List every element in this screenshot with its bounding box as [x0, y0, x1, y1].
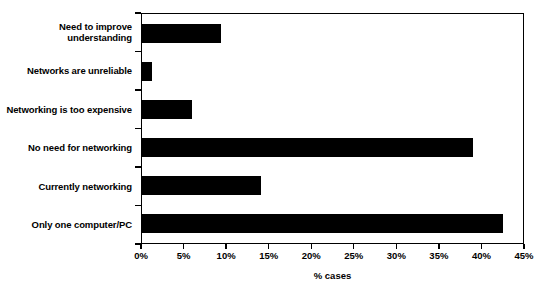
x-tick-mark [311, 244, 312, 249]
x-tick-mark [396, 244, 397, 249]
x-tick-label: 35% [429, 250, 448, 261]
x-tick-label: 30% [387, 250, 406, 261]
bar [142, 100, 192, 119]
y-axis-label-text: Networking is too expensive [6, 104, 132, 116]
x-tick-label: 40% [472, 250, 491, 261]
x-tick-label: 5% [177, 250, 191, 261]
x-tick-label: 15% [259, 250, 278, 261]
x-tick-mark [268, 244, 269, 249]
bar-row [142, 205, 523, 243]
bar [142, 62, 152, 81]
y-axis-label: Currently networking [0, 167, 136, 206]
y-axis-label-text: No need for networking [28, 142, 132, 154]
bar [142, 176, 261, 195]
x-tick-label: 20% [302, 250, 321, 261]
x-tick-label: 45% [514, 250, 533, 261]
x-axis-ticks: 0%5%10%15%20%25%30%35%40%45% [141, 244, 524, 250]
bar-row [142, 167, 523, 205]
x-tick-label: 10% [217, 250, 236, 261]
y-axis-label: No need for networking [0, 129, 136, 168]
bar-row [142, 52, 523, 90]
y-axis-label-text: Only one computer/PC [32, 219, 132, 231]
x-tick-label: 25% [344, 250, 363, 261]
y-axis-label: Need to improve understanding [0, 13, 136, 52]
y-axis-category-labels: Need to improve understandingNetworks ar… [0, 13, 136, 244]
x-axis-title: % cases [141, 270, 524, 281]
x-tick-mark [225, 244, 226, 249]
bar-row [142, 90, 523, 128]
x-tick-mark [481, 244, 482, 249]
bar-chart: Need to improve understandingNetworks ar… [0, 0, 550, 307]
y-axis-label-text: Need to improve understanding [59, 21, 132, 44]
x-tick-mark [353, 244, 354, 249]
x-tick-mark [183, 244, 184, 249]
bar-row [142, 14, 523, 52]
x-tick-label: 0% [134, 250, 148, 261]
plot-area [141, 13, 524, 244]
y-axis-label-text: Networks are unreliable [27, 65, 132, 77]
bar [142, 214, 503, 233]
x-tick-mark [140, 244, 141, 249]
x-tick-mark [523, 244, 524, 249]
y-axis-label: Only one computer/PC [0, 206, 136, 245]
y-axis-label: Networking is too expensive [0, 90, 136, 129]
x-tick-mark [438, 244, 439, 249]
bar-series [142, 14, 523, 243]
bar [142, 138, 473, 157]
y-axis-label: Networks are unreliable [0, 52, 136, 91]
bar [142, 24, 221, 43]
y-axis-label-text: Currently networking [38, 181, 132, 193]
bar-row [142, 129, 523, 167]
